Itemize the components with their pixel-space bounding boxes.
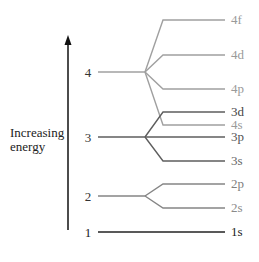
shell-2-group <box>98 184 225 208</box>
shell-4-group <box>98 20 225 125</box>
subshell-label-1s: 1s <box>231 224 243 239</box>
shell-label-4: 4 <box>85 65 92 80</box>
energy-arrow-icon <box>65 35 72 230</box>
energy-axis-label-line2: energy <box>10 140 64 154</box>
subshell-label-4p: 4p <box>231 81 244 96</box>
subshell-label-2s: 2s <box>231 200 243 215</box>
subshell-label-4f: 4f <box>231 12 243 27</box>
energy-axis-label-line1: Increasing <box>10 126 64 140</box>
subshell-label-2p: 2p <box>231 176 244 191</box>
subshell-label-3s: 3s <box>231 153 243 168</box>
subshell-label-3p: 3p <box>231 129 244 144</box>
energy-axis-label: Increasing energy <box>10 126 64 154</box>
shell-label-3: 3 <box>85 130 92 145</box>
shell-label-2: 2 <box>85 189 92 204</box>
shell-label-1: 1 <box>85 225 92 240</box>
subshell-label-4d: 4d <box>231 47 245 62</box>
